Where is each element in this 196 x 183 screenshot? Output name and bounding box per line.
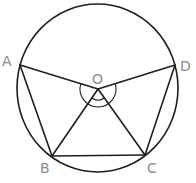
label-c: C [147, 160, 157, 176]
circle-diagram: A D O B C [0, 0, 196, 183]
angle-mark-boc [92, 98, 105, 100]
radius-oc [98, 89, 145, 155]
angle-mark-aod [80, 84, 116, 107]
label-d: D [180, 58, 191, 74]
chord-bc [52, 155, 145, 156]
radius-od [98, 65, 175, 89]
radius-ob [52, 89, 98, 156]
label-o: O [92, 71, 103, 87]
label-a: A [2, 53, 12, 69]
circle [17, 4, 178, 172]
radius-oa [20, 65, 98, 89]
label-b: B [40, 160, 50, 176]
